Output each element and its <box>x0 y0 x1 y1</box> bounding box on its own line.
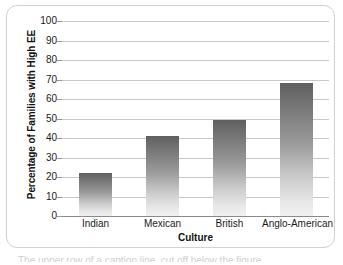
figure-frame: Percentage of Families with High EE 100 … <box>6 5 335 248</box>
bar-chart: Percentage of Families with High EE 100 … <box>7 6 336 249</box>
x-tick-label-indian: Indian <box>62 218 129 230</box>
bar-british <box>213 120 246 216</box>
x-axis-line <box>62 216 329 217</box>
gridline <box>62 60 329 61</box>
gridline <box>62 41 329 42</box>
x-tick-label-british: British <box>196 218 263 230</box>
y-tick-label: 20 <box>27 172 57 182</box>
y-tick-label: 100 <box>27 16 57 26</box>
y-tick-label: 80 <box>27 55 57 65</box>
caption-partial-text: The upper row of a caption line, cut off… <box>18 256 318 262</box>
plot-area <box>62 21 329 216</box>
y-tick-label: 0 <box>27 211 57 221</box>
caption-sliver: The upper row of a caption line, cut off… <box>18 256 318 262</box>
y-tick-label: 70 <box>27 75 57 85</box>
y-tick-label: 40 <box>27 133 57 143</box>
x-tick-label-mexican: Mexican <box>129 218 196 230</box>
x-tick-label-anglo-american: Anglo-American <box>262 218 329 230</box>
bar-mexican <box>146 136 179 216</box>
bar-indian <box>79 173 112 216</box>
y-tick-label: 30 <box>27 153 57 163</box>
bar-anglo-american <box>280 83 313 216</box>
y-tick-label: 10 <box>27 192 57 202</box>
y-tick-label: 90 <box>27 36 57 46</box>
y-tick-label: 50 <box>27 114 57 124</box>
x-axis-title: Culture <box>62 232 329 243</box>
gridline <box>62 80 329 81</box>
y-tick-label: 60 <box>27 94 57 104</box>
gridline <box>62 21 329 22</box>
y-axis-ticks: 100 90 80 70 60 50 40 30 20 10 0 <box>21 21 57 216</box>
